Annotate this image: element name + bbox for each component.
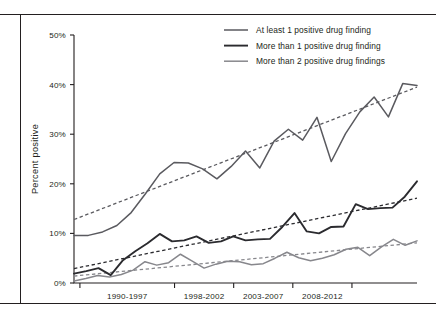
x-group-label: 1990-1997 [107,292,148,301]
x-axis-tick-labels: 1990-19971998-20022003-20072008-2012 [107,292,343,301]
series-line [74,181,417,275]
y-tick-label: 20% [49,180,66,189]
y-axis-tick-labels: 0%10%20%30%40%50% [49,31,66,288]
legend-label[interactable]: More than 2 positive drug findings [256,56,385,66]
trendlines [74,87,417,276]
y-tick-label: 0% [54,279,66,288]
legend-label[interactable]: More than 1 positive drug finding [256,41,381,51]
y-tick-label: 40% [49,81,66,90]
figure-container: Percent positive 0%10%20%30%40%50% 1990-… [0,0,436,316]
x-group-label: 1998-2002 [184,292,225,301]
y-axis-title: Percent positive [30,124,40,194]
chart-legend[interactable]: At least 1 positive drug findingMore tha… [224,25,385,66]
data-series-lines [74,84,417,281]
y-axis-title-text: Percent positive [30,124,40,194]
x-group-label: 2003-2007 [243,292,284,301]
y-tick-label: 30% [49,130,66,139]
series-line [74,84,417,236]
y-tick-label: 50% [49,31,66,40]
legend-label[interactable]: At least 1 positive drug finding [256,25,371,35]
x-group-label: 2008-2012 [302,292,343,301]
series-line [74,239,417,281]
chart-axes [70,35,417,288]
chart-plot-area: Percent positive 0%10%20%30%40%50% 1990-… [0,0,436,316]
y-tick-label: 10% [49,229,66,238]
